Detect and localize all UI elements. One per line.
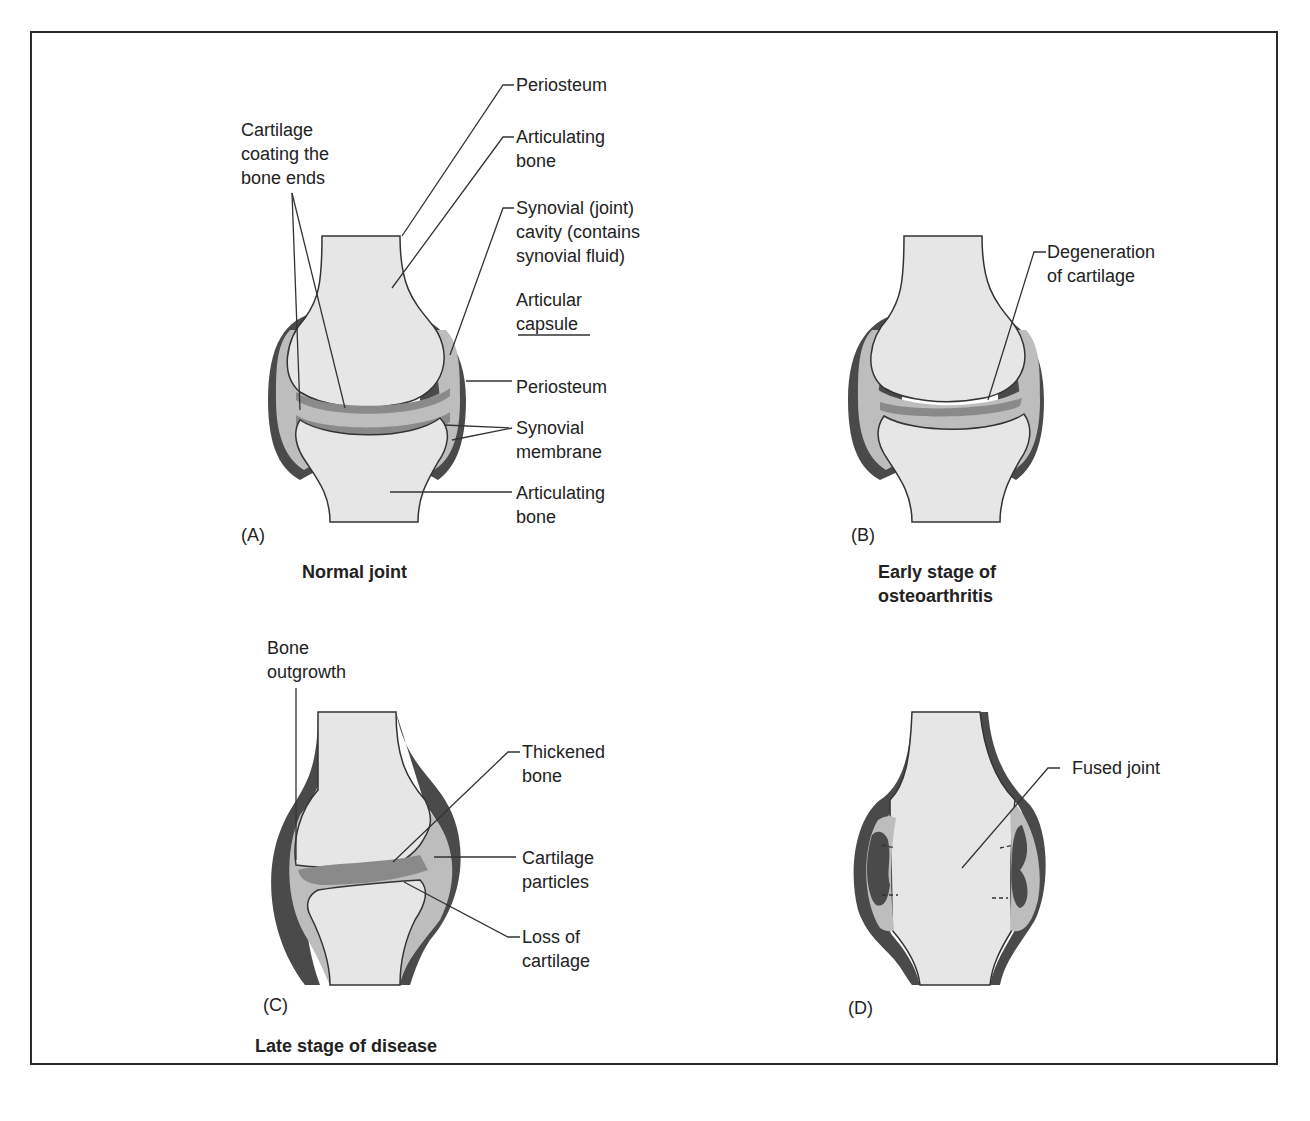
joint-diagrams: .bone { fill:#e6e6e6; stroke:#333; strok… [0,0,1310,1121]
label-thickened-bone: Thickened bone [522,740,605,788]
panel-b-caption: Early stage of osteoarthritis [878,560,996,608]
label-degeneration-of-cartilage: Degeneration of cartilage [1047,240,1155,288]
label-loss-of-cartilage: Loss of cartilage [522,925,590,973]
label-line: coating the [241,142,329,166]
label-line: particles [522,870,594,894]
panel-b-early-oa-illustration [848,236,1044,522]
label-line: cartilage [522,949,590,973]
label-line: synovial fluid) [516,244,640,268]
label-line: of cartilage [1047,264,1155,288]
label-synovial-cavity: Synovial (joint) cavity (contains synovi… [516,196,640,268]
panel-a-letter: (A) [241,525,265,546]
label-line: cavity (contains [516,220,640,244]
label-line: outgrowth [267,660,346,684]
panel-c-letter: (C) [263,995,288,1016]
label-line: Thickened [522,740,605,764]
label-line: Articulating [516,125,605,149]
label-line: Loss of [522,925,590,949]
label-line: bone ends [241,166,329,190]
label-line: bone [516,149,605,173]
panel-a-caption: Normal joint [302,560,407,584]
label-line: Synovial [516,416,602,440]
panel-c-late-stage-illustration [271,712,461,985]
panel-b-letter: (B) [851,525,875,546]
label-line: Degeneration [1047,240,1155,264]
label-line: membrane [516,440,602,464]
label-line: Articulating [516,481,605,505]
label-line: bone [522,764,605,788]
label-periosteum-top: Periosteum [516,73,607,97]
label-articulating-bone-top: Articulating bone [516,125,605,173]
label-line: Synovial (joint) [516,196,640,220]
panel-d-fused-joint-illustration [854,712,1046,985]
label-line: capsule [516,312,582,336]
caption-line: osteoarthritis [878,584,996,608]
panel-a-normal-joint-illustration [268,236,466,522]
label-articular-capsule: Articular capsule [516,288,582,336]
caption-line: Early stage of [878,560,996,584]
label-line: Cartilage [522,846,594,870]
label-synovial-membrane: Synovial membrane [516,416,602,464]
label-line: bone [516,505,605,529]
panel-d-letter: (D) [848,998,873,1019]
label-line: Bone [267,636,346,660]
label-cartilage-particles: Cartilage particles [522,846,594,894]
label-fused-joint: Fused joint [1072,756,1160,780]
label-bone-outgrowth: Bone outgrowth [267,636,346,684]
label-periosteum-mid: Periosteum [516,375,607,399]
label-line: Articular [516,288,582,312]
label-articulating-bone-bottom: Articulating bone [516,481,605,529]
panel-c-caption: Late stage of disease [255,1034,437,1058]
label-cartilage-coating: Cartilage coating the bone ends [241,118,329,190]
label-line: Cartilage [241,118,329,142]
